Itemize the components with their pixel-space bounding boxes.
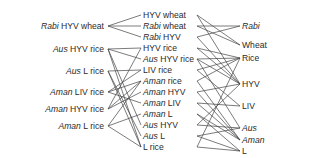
node-left-1: Aus HYV rice <box>53 44 104 54</box>
edge-L4-M3 <box>108 48 141 109</box>
edge-L1-M3 <box>108 48 141 49</box>
node-label-italic: Aus <box>242 123 257 133</box>
node-label-italic: Aman <box>242 135 264 145</box>
edge-M3-R3 <box>197 48 240 84</box>
node-right-7: L <box>242 146 247 156</box>
node-middle-3: HYV rice <box>143 43 177 53</box>
node-middle-1: Rabi wheat <box>143 21 186 31</box>
node-label-text: L <box>158 131 165 141</box>
node-label-text: LIV <box>165 98 180 108</box>
node-middle-10: Aus HYV <box>143 120 178 130</box>
node-right-5: Aus <box>242 123 257 133</box>
node-label-italic: Rabi <box>242 21 260 31</box>
node-label-italic: Aus <box>66 66 81 76</box>
node-label-text: HYV <box>242 79 260 89</box>
node-label-italic: Rabi <box>41 21 59 31</box>
edge-M2-R3 <box>197 37 240 84</box>
node-middle-9: Aman L <box>143 109 173 119</box>
edge-M7-R3 <box>197 84 240 92</box>
node-left-0: Rabi HYV wheat <box>41 21 104 31</box>
node-left-3: Aman LIV rice <box>50 87 104 97</box>
edge-L0-M0 <box>108 15 141 26</box>
node-right-1: Wheat <box>242 40 267 50</box>
node-label-text: HYV rice <box>143 43 177 53</box>
node-label-italic: Aus <box>143 131 158 141</box>
node-label-italic: Aus <box>143 120 158 130</box>
edge-L5-M12 <box>108 126 141 147</box>
node-middle-4: Aus HYV rice <box>143 54 194 64</box>
edge-L2-M5 <box>108 70 141 71</box>
node-label-text: HYV wheat <box>59 21 104 31</box>
node-label-text: rice <box>165 76 181 86</box>
node-label-text: L rice <box>143 142 164 152</box>
edge-L5-M9 <box>108 114 141 126</box>
node-label-text: HYV rice <box>158 54 194 64</box>
node-label-text: Rice <box>242 53 259 63</box>
node-label-text: HYV <box>165 87 185 97</box>
node-label-text: HYV <box>161 32 181 42</box>
node-label-text: LIV <box>242 101 255 111</box>
node-label-italic: Aman <box>50 87 72 97</box>
node-label-text: L rice <box>81 66 104 76</box>
node-label-italic: Aman <box>143 109 165 119</box>
node-label-text: HYV rice <box>68 104 104 114</box>
edge-M4-R2 <box>197 58 240 59</box>
node-label-text: HYV rice <box>68 44 104 54</box>
node-right-4: LIV <box>242 101 255 111</box>
node-middle-7: Aman HYV <box>143 87 186 97</box>
node-label-text: L <box>165 109 172 119</box>
edge-L0-M2 <box>108 26 141 37</box>
node-middle-5: LIV rice <box>143 65 172 75</box>
edge-L3-M8 <box>108 92 141 103</box>
edge-M10-R5 <box>197 125 240 128</box>
node-label-italic: Aman <box>143 98 165 108</box>
node-label-italic: Rabi <box>143 32 161 42</box>
node-label-text: L <box>242 146 247 156</box>
node-right-2: Rice <box>242 53 259 63</box>
node-label-italic: Aman <box>45 104 67 114</box>
node-label-italic: Aman <box>143 87 165 97</box>
edge-L1-M10 <box>108 49 141 125</box>
node-label-italic: Rabi <box>143 21 161 31</box>
edge-L1-M12 <box>108 49 141 147</box>
node-label-italic: Aman <box>143 76 165 86</box>
node-label-text: HYV <box>158 120 178 130</box>
edge-L4-M6 <box>108 81 141 109</box>
node-middle-0: HYV wheat <box>143 10 186 20</box>
node-left-5: Aman L rice <box>58 121 104 131</box>
node-middle-11: Aus L <box>143 131 165 141</box>
node-left-2: Aus L rice <box>66 66 104 76</box>
node-label-text: L rice <box>81 121 104 131</box>
edge-M0-R1 <box>197 15 240 45</box>
node-label-italic: Aus <box>53 44 68 54</box>
edge-M5-R2 <box>197 58 240 70</box>
node-right-0: Rabi <box>242 21 260 31</box>
node-middle-6: Aman rice <box>143 76 182 86</box>
node-right-6: Aman <box>242 135 264 145</box>
node-middle-12: L rice <box>143 142 164 152</box>
node-label-text: Wheat <box>242 40 267 50</box>
node-label-italic: Aman <box>58 121 80 131</box>
node-label-text: HYV wheat <box>143 10 186 20</box>
node-label-text: LIV rice <box>72 87 104 97</box>
node-label-text: LIV rice <box>143 65 172 75</box>
node-right-3: HYV <box>242 79 260 89</box>
node-label-italic: Aus <box>143 54 158 64</box>
node-middle-2: Rabi HYV <box>143 32 181 42</box>
node-left-4: Aman HYV rice <box>45 104 104 114</box>
node-middle-8: Aman LIV <box>143 98 181 108</box>
node-label-text: wheat <box>161 21 186 31</box>
